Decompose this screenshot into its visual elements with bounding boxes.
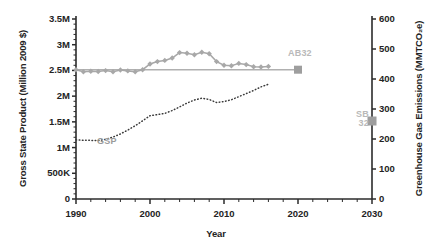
ghg-emissions-series (73, 50, 271, 75)
axis-lines (76, 16, 372, 199)
gsp-series-label: GSP (97, 136, 117, 146)
ab32-annotation-label: AB32 (288, 48, 312, 58)
sb32-label-line2: 32 (335, 119, 369, 128)
chart-container: Gross State Product (Million 2009 $) Gre… (0, 0, 432, 247)
gsp-series (76, 84, 268, 140)
sb32-annotation-label: SB 32 (335, 110, 369, 128)
axis-ticks (72, 19, 376, 204)
